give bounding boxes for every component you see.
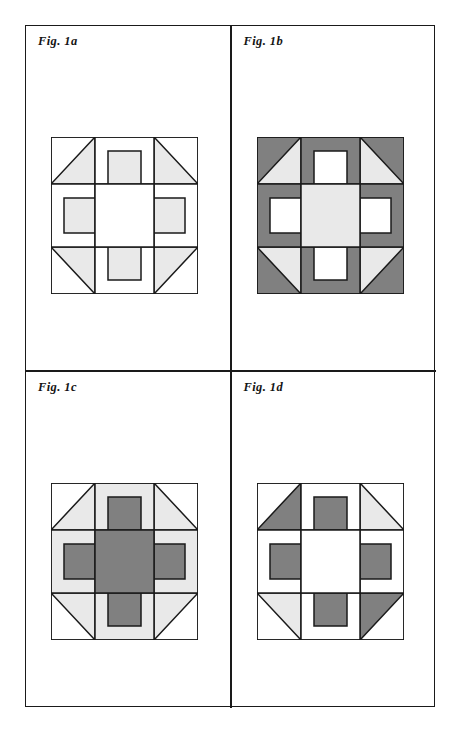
figure-label-1c: Fig. 1c [38,380,77,395]
figure-label-1d: Fig. 1d [244,380,284,395]
figure-label-1a: Fig. 1a [38,34,78,49]
figure-panel-1b: Fig. 1b [232,26,436,370]
quilt-block-1b-svg [257,137,404,294]
quilt-block-1c-svg [51,483,198,640]
figure-panel-1d: Fig. 1d [232,372,436,716]
figure-label-1b: Fig. 1b [244,34,284,49]
quilt-block-1a-svg [51,137,198,294]
page-canvas: Fig. 1a Fig. 1b Fig. 1c Fig. 1d [0,0,454,730]
quilt-block-1b [257,137,404,294]
figure-panel-1a: Fig. 1a [26,26,230,370]
quilt-block-1d [257,483,404,640]
figure-frame: Fig. 1a Fig. 1b Fig. 1c Fig. 1d [25,25,435,707]
quilt-block-1c [51,483,198,640]
figure-panel-1c: Fig. 1c [26,372,230,716]
quilt-block-1d-svg [257,483,404,640]
quilt-block-1a [51,137,198,294]
